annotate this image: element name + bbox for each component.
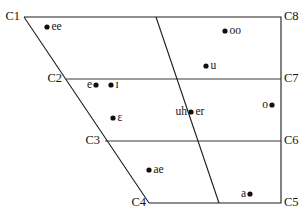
corner-label-c1: C1 [0, 10, 20, 23]
vowel-label-5: o [228, 99, 268, 111]
corner-label-c5: C5 [284, 196, 299, 209]
vowel-dot [108, 82, 113, 87]
corner-label-c6: C6 [284, 134, 299, 147]
vowel-label-3: e [52, 79, 92, 91]
vowel-label-7: er [196, 106, 205, 118]
corner-label-c4: C4 [124, 196, 146, 209]
corner-label-c3: C3 [78, 134, 100, 147]
vowel-dot [93, 82, 98, 87]
corner-label-c7: C7 [284, 72, 299, 85]
vowel-label-9: ae [154, 164, 164, 176]
vowel-dot [203, 63, 208, 68]
vowel-dot [222, 28, 227, 33]
vowel-label-2: u [211, 60, 217, 72]
vowel-label-6: uh [147, 106, 187, 118]
vowel-label-10: a [206, 188, 246, 200]
vowel-dot [110, 115, 115, 120]
left-slanted-edge [24, 17, 149, 203]
corner-label-c8: C8 [284, 10, 299, 23]
vowel-label-4: ɪ [116, 79, 119, 91]
vowel-dot [269, 102, 274, 107]
vowel-dot [247, 191, 252, 196]
vowel-dot [44, 24, 49, 29]
vowel-label-1: oo [230, 25, 242, 37]
vowel-label-8: ɛ [118, 112, 123, 124]
vowel-dot [188, 109, 193, 114]
vowel-dot [146, 167, 151, 172]
vowel-label-0: ee [52, 21, 62, 33]
vowel-chart-figure: C1C8C2C7C3C6C4C5 eeooueɪouherɛaea [0, 0, 305, 221]
